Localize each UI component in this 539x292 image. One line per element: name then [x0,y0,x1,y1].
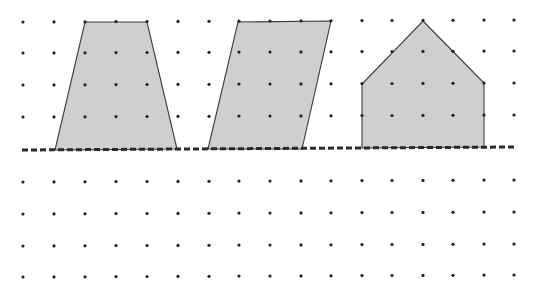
grid-dot [299,243,302,246]
grid-dot [329,211,332,214]
grid-dot [482,50,485,53]
grid-dot [114,51,117,54]
grid-dot [390,179,393,182]
grid-dot [145,180,148,183]
grid-dot [482,274,485,277]
grid-dot [390,50,393,53]
grid-dot [207,275,210,278]
grid-dot [512,81,515,84]
grid-dot [451,114,454,117]
grid-dot [145,275,148,278]
grid-dot [176,20,179,23]
grid-dot [390,82,393,85]
grid-dot [390,274,393,277]
grid-dot [176,83,179,86]
grid-dot [114,115,117,118]
grid-dot [482,19,485,22]
grid-dot [390,243,393,246]
grid-dot [176,115,179,118]
grid-dot [145,83,148,86]
grid-dot [237,212,240,215]
grid-dot [207,51,210,54]
grid-dot [451,274,454,277]
grid-dot [329,179,332,182]
grid-dot [421,211,424,214]
grid-dot [299,114,302,117]
grid-dot [329,274,332,277]
grid-dot [482,243,485,246]
grid-dot [237,83,240,86]
grid-dot [360,211,363,214]
grid-dot [21,275,24,278]
grid-dot [299,211,302,214]
grid-dot [421,50,424,53]
grid-dot [21,115,24,118]
grid-dot [237,180,240,183]
grid-dot [329,50,332,53]
grid-dot [451,179,454,182]
grid-dot [421,274,424,277]
grid-dot [268,50,271,53]
grid-dot [207,212,210,215]
dot-grid-diagram [0,0,539,292]
grid-dot [512,49,515,52]
grid-dot [83,212,86,215]
grid-dot [21,180,24,183]
grid-dot [360,243,363,246]
grid-dot [329,114,332,117]
grid-dot [360,114,363,117]
grid-dot [207,20,210,23]
grid-dot [52,83,55,86]
grid-dot [52,244,55,247]
grid-dot [299,179,302,182]
grid-dot [145,51,148,54]
grid-dot [21,20,24,23]
grid-dot [421,19,424,22]
grid-dot [268,179,271,182]
grid-dot [114,20,117,23]
grid-dot [237,244,240,247]
grid-dot [145,212,148,215]
grid-dot [329,19,332,22]
grid-dot [207,244,210,247]
grid-dot [360,179,363,182]
grid-dot [512,273,515,276]
grid-dot [512,18,515,21]
grid-dot [21,51,24,54]
grid-dot [421,179,424,182]
grid-dot [299,19,302,22]
grid-dot [52,180,55,183]
grid-dot [114,83,117,86]
grid-dot [83,51,86,54]
grid-dot [268,211,271,214]
grid-dot [482,179,485,182]
grid-dot [451,50,454,53]
grid-dot [512,210,515,213]
grid-dot [360,82,363,85]
grid-dot [451,243,454,246]
grid-dot [268,114,271,117]
grid-dot [52,20,55,23]
grid-dot [390,211,393,214]
grid-dot [52,212,55,215]
grid-dot [512,178,515,181]
grid-dot [21,212,24,215]
grid-dot [421,114,424,117]
grid-dot [299,50,302,53]
grid-dot [114,275,117,278]
grid-dot [329,243,332,246]
grid-dot [360,50,363,53]
grid-dot [299,274,302,277]
grid-dot [83,20,86,23]
grid-dot [237,115,240,118]
grid-dot [451,211,454,214]
grid-dot [482,114,485,117]
grid-dot [237,20,240,23]
grid-dot [268,82,271,85]
grid-dot [360,274,363,277]
grid-dot [176,180,179,183]
diagram-canvas: Shapes on a dot grid resting on a dashed… [0,0,539,292]
grid-dot [207,180,210,183]
grid-dot [114,244,117,247]
grid-dot [145,244,148,247]
